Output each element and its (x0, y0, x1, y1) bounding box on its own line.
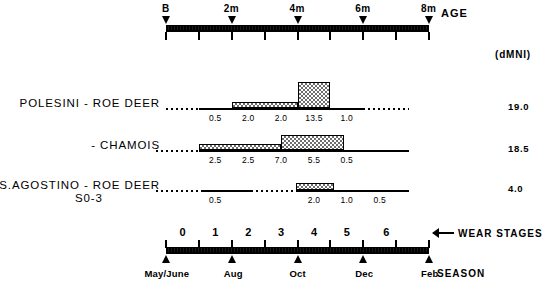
row-sublabel: S0-3 (75, 192, 103, 204)
bar-value-label: 2.5 (201, 155, 229, 165)
dmni-value: 18.5 (508, 143, 529, 154)
row-baseline-solid (199, 108, 363, 110)
wear-axis-tick (264, 240, 266, 248)
row-label: POLESINI - ROE DEER (20, 97, 160, 109)
wear-stage-number: 2 (238, 226, 258, 238)
season-pointer-icon (294, 255, 302, 263)
season-pointer-icon (228, 255, 236, 263)
row-baseline-solid (202, 190, 251, 192)
age-axis-tick (362, 32, 364, 40)
season-label: May/June (144, 268, 189, 279)
bar-value-label: 13.5 (300, 113, 328, 123)
histogram-bar (199, 144, 281, 150)
wear-axis-bar (166, 247, 429, 254)
age-axis-tick (428, 32, 430, 40)
row-baseline-dotted (166, 108, 199, 110)
wear-axis-tick (395, 240, 397, 248)
wear-axis-tick (362, 240, 364, 248)
bar-value-label: 5.5 (300, 155, 328, 165)
wear-axis-tick (297, 240, 299, 248)
wear-axis-bar-fill (166, 248, 429, 252)
row-baseline-dotted (156, 150, 199, 152)
bar-value-label: 2.0 (300, 195, 328, 205)
wear-stage-number: 0 (172, 226, 192, 238)
age-axis-pointer-icon (228, 16, 236, 24)
bar-value-label: 0.5 (201, 195, 229, 205)
season-pointer-icon (162, 255, 170, 263)
histogram-bar (298, 82, 331, 108)
season-pointer-icon (425, 255, 433, 263)
wear-axis-tick (165, 240, 167, 248)
age-axis-tick (329, 32, 331, 40)
season-label: Aug (224, 268, 243, 279)
histogram-bar (232, 102, 298, 108)
age-axis-bar-fill (166, 26, 429, 30)
age-axis-caption: AGE (441, 7, 468, 19)
season-label: Feb (421, 268, 439, 279)
dmni-value: 4.0 (508, 183, 523, 194)
dmni-header: (dMNI) (495, 49, 531, 60)
wear-stage-number: 3 (271, 226, 291, 238)
bar-value-label: 2.0 (234, 113, 262, 123)
bar-value-label: 7.0 (267, 155, 295, 165)
age-axis-pointer-icon (294, 16, 302, 24)
age-axis-tick (165, 32, 167, 40)
dmni-value: 19.0 (508, 101, 529, 112)
bar-value-label: 1.0 (333, 113, 361, 123)
row-baseline-dotted (251, 190, 295, 192)
row-label: S.AGOSTINO - ROE DEER (0, 179, 160, 191)
age-axis-bar (166, 25, 429, 32)
age-axis-tick (264, 32, 266, 40)
bar-value-label: 1.0 (333, 195, 361, 205)
bar-value-label: 0.5 (201, 113, 229, 123)
row-baseline-dotted (363, 108, 409, 110)
wear-axis-tick (428, 240, 430, 248)
age-axis-pointer-icon (359, 16, 367, 24)
age-axis-label: 2m (224, 3, 239, 14)
wear-stage-number: 6 (376, 226, 396, 238)
age-axis-tick (297, 32, 299, 40)
histogram-bar (296, 183, 334, 190)
age-axis-label: 6m (355, 3, 370, 14)
age-axis-label: 4m (290, 3, 305, 14)
figure-canvas: B2m4m6m8m AGE (dMNI) POLESINI - ROE DEER… (0, 0, 555, 289)
age-axis-pointer-icon (425, 16, 433, 24)
wear-axis-tick (198, 240, 200, 248)
histogram-bar (281, 135, 343, 150)
wear-stage-number: 1 (205, 226, 225, 238)
age-axis-tick (231, 32, 233, 40)
row-label: - CHAMOIS (91, 139, 160, 151)
wear-stage-number: 4 (304, 226, 324, 238)
wear-stages-caption: WEAR STAGES (458, 228, 543, 239)
age-axis-tick (395, 32, 397, 40)
age-axis-label: 8m (421, 3, 436, 14)
season-caption: SEASON (437, 268, 485, 279)
bar-value-label: 0.5 (366, 195, 394, 205)
season-label: Oct (289, 268, 305, 279)
age-axis-tick (198, 32, 200, 40)
age-axis-label: B (162, 3, 170, 14)
bar-value-label: 2.5 (234, 155, 262, 165)
wear-stages-arrow-icon (432, 228, 456, 238)
age-axis-pointer-icon (162, 16, 170, 24)
bar-value-label: 2.0 (267, 113, 295, 123)
season-label: Dec (355, 268, 373, 279)
wear-axis-tick (231, 240, 233, 248)
row-baseline-solid (296, 190, 409, 192)
bar-value-label: 0.5 (333, 155, 361, 165)
wear-axis-tick (329, 240, 331, 248)
row-baseline-solid (199, 150, 409, 152)
season-pointer-icon (359, 255, 367, 263)
wear-stage-number: 5 (337, 226, 357, 238)
row-baseline-dotted (156, 190, 202, 192)
